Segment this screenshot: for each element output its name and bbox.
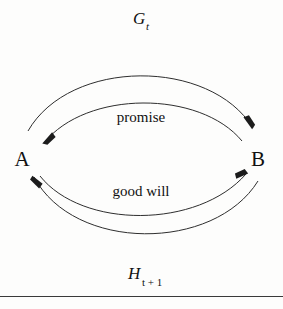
edge-label-good-will: good will bbox=[112, 183, 169, 199]
edge-label-h-main: H bbox=[127, 264, 142, 283]
node-label-b: B bbox=[251, 147, 265, 171]
diagram-svg: A B G t promise good will H t + 1 bbox=[0, 0, 283, 309]
node-label-a: A bbox=[14, 147, 30, 171]
edge-label-g-subscript: t bbox=[146, 20, 150, 32]
diagram-canvas: A B G t promise good will H t + 1 bbox=[0, 0, 283, 309]
edge-label-h-subscript: t + 1 bbox=[142, 276, 162, 288]
arrowhead-g-to-b bbox=[241, 114, 256, 129]
arrowhead-promise-to-a bbox=[41, 132, 56, 145]
edge-label-promise: promise bbox=[117, 109, 166, 125]
edge-label-g-main: G bbox=[133, 9, 145, 28]
